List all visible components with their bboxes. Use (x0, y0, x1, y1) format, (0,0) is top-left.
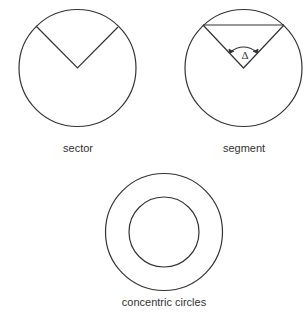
sector-radii (36, 26, 118, 68)
geometry-diagram: Δ (0, 0, 308, 312)
segment-label: segment (223, 142, 265, 154)
sector-label: sector (63, 142, 93, 154)
segment-figure (185, 10, 302, 127)
concentric-figure (106, 174, 223, 291)
angle-delta-label: Δ (241, 49, 248, 61)
concentric-circles-label: concentric circles (122, 296, 206, 308)
inner-circle (129, 197, 199, 267)
sector-figure (19, 10, 136, 127)
outer-circle (106, 174, 223, 291)
